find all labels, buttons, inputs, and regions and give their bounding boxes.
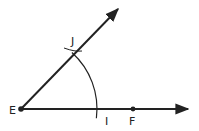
geometry-figure: EJIF — [0, 0, 199, 131]
point-F — [131, 107, 136, 112]
point-E — [18, 106, 24, 112]
rays-group — [21, 9, 188, 109]
ray-EJ — [21, 9, 118, 109]
label-J: J — [70, 35, 74, 48]
diagram-canvas: EJIF — [0, 0, 199, 131]
label-F: F — [129, 115, 135, 128]
label-E: E — [9, 104, 16, 117]
label-I: I — [105, 115, 108, 128]
points-group: EJIF — [9, 35, 135, 128]
